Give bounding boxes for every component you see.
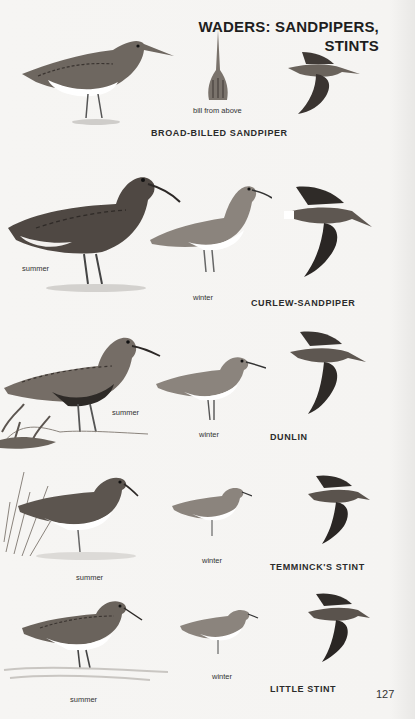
little-stint-winter-illustration: [178, 608, 260, 658]
temmincks-stint-summer-illustration: [16, 474, 140, 570]
broad-billed-sandpiper-standing-illustration: [18, 36, 178, 128]
water-reflection-illustration: [0, 662, 170, 688]
species-name-dunlin: DUNLIN: [270, 432, 308, 442]
temmincks-stint-winter-illustration: [170, 486, 252, 542]
dunlin-summer-caption: summer: [112, 408, 139, 417]
broad-billed-sandpiper-flying-illustration: [286, 50, 362, 116]
field-guide-page: WADERS: SANDPIPERS, STINTS bill from abo…: [0, 0, 415, 719]
temmincks-stint-flying-illustration: [308, 474, 372, 546]
page-number: 127: [376, 688, 394, 700]
temmincks-stint-summer-caption: summer: [76, 573, 103, 582]
temmincks-stint-winter-caption: winter: [202, 556, 222, 565]
species-name-temmincks-stint: TEMMINCK'S STINT: [270, 562, 365, 572]
species-name-little-stint: LITTLE STINT: [270, 684, 336, 694]
species-name-broad-billed-sandpiper: BROAD-BILLED SANDPIPER: [151, 128, 288, 138]
species-name-curlew-sandpiper: CURLEW-SANDPIPER: [251, 298, 355, 308]
curlew-sandpiper-flying-illustration: [284, 185, 374, 277]
dunlin-winter-caption: winter: [199, 430, 219, 439]
little-stint-summer-caption: summer: [70, 695, 97, 704]
little-stint-flying-illustration: [308, 592, 372, 664]
curlew-sandpiper-summer-caption: summer: [22, 264, 49, 273]
curlew-sandpiper-winter-caption: winter: [193, 293, 213, 302]
dunlin-flying-illustration: [290, 330, 368, 416]
bill-from-above-caption: bill from above: [193, 106, 242, 115]
dunlin-winter-illustration: [154, 354, 266, 428]
little-stint-winter-caption: winter: [212, 672, 232, 681]
broad-billed-bill-from-above-illustration: [205, 30, 231, 102]
curlew-sandpiper-winter-illustration: [148, 178, 272, 278]
